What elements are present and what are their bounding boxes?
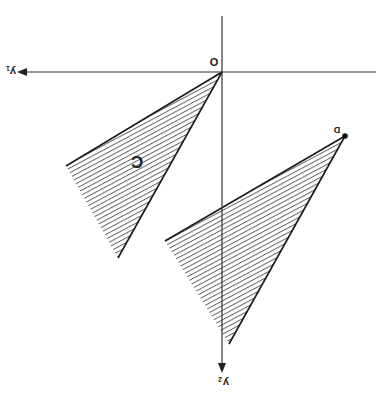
point-d-dot [342,133,348,139]
axis-y1-label: y 1 [6,65,16,79]
cone-d [165,136,345,344]
origin-label: O [209,56,218,68]
svg-text:1: 1 [6,65,10,72]
cone-c-label: C [131,152,143,171]
svg-text:y: y [222,377,229,389]
diagram-canvas: O D C y 1 y 2 [0,0,379,400]
axis-y2-label: y 2 [218,376,229,390]
point-d-label: D [333,125,340,135]
svg-text:2: 2 [218,376,222,383]
axis-y1 [17,68,376,76]
